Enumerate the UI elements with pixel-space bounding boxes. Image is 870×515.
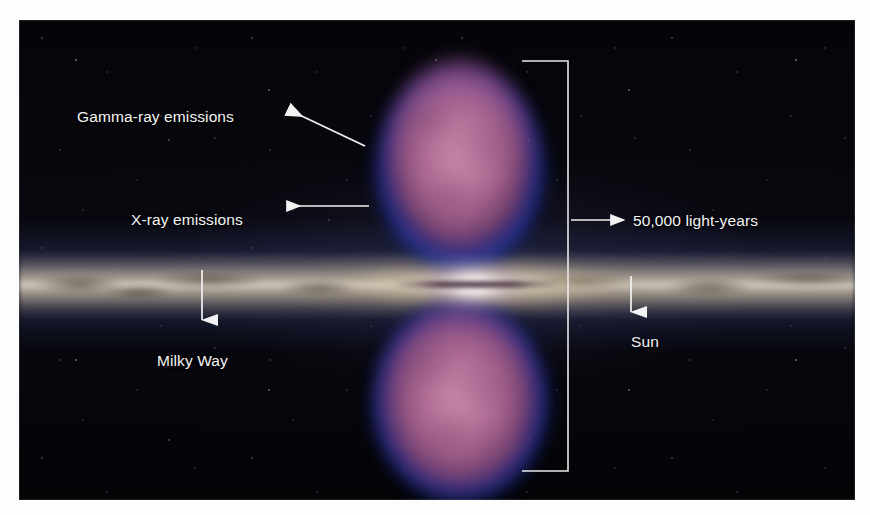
figure-root: Gamma-ray emissions X-ray emissions Milk… — [0, 0, 870, 515]
distance-scale-label: 50,000 light-years — [633, 212, 758, 230]
gamma-ray-arrow — [289, 110, 365, 146]
space-image-plate: Gamma-ray emissions X-ray emissions Milk… — [19, 20, 855, 500]
annotation-lines — [19, 20, 855, 500]
annotation-layer: Gamma-ray emissions X-ray emissions Milk… — [19, 20, 855, 500]
sun-label: Sun — [631, 333, 659, 351]
gamma-ray-emissions-label: Gamma-ray emissions — [77, 108, 234, 126]
milky-way-label: Milky Way — [157, 352, 228, 370]
xray-emissions-label: X-ray emissions — [131, 211, 243, 229]
distance-bracket — [522, 61, 568, 471]
